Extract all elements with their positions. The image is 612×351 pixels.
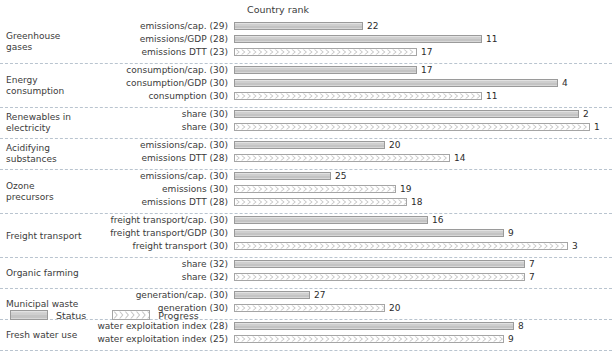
plot-area: Greenhousegasesemissions/cap. (29)22emis… [0, 20, 612, 292]
bar-track: 7 [234, 271, 612, 284]
bar-value-label: 27 [311, 289, 325, 302]
bar-track: 25 [234, 170, 612, 183]
bar-value-label: 14 [451, 152, 465, 165]
row-label: consumption (30) [92, 90, 234, 103]
bar-value-label: 2 [580, 108, 589, 121]
group-label: Renewables inelectricity [6, 112, 90, 134]
status-swatch-icon [10, 310, 48, 320]
chart-row: freight transport (30)3 [92, 240, 612, 253]
bar-track: 20 [234, 302, 612, 315]
chart-title: Country rank [247, 4, 309, 15]
group-rows: emissions/cap. (30)25emissions (30)19emi… [92, 170, 612, 209]
group-label: Fresh water use [6, 330, 90, 341]
group-label: Organic farming [6, 268, 90, 279]
row-label: freight transport/GDP (30) [92, 227, 234, 240]
chevron-pattern-icon [235, 336, 503, 342]
group-rows: share (32)7share (32)7 [92, 258, 612, 284]
bar-track: 2 [234, 108, 612, 121]
row-label: emissions DTT (23) [92, 46, 234, 59]
chart-row: emissions (30)19 [92, 183, 612, 196]
chevron-pattern-icon [235, 186, 395, 192]
progress-bar [234, 48, 417, 56]
row-label: freight transport/cap. (30) [92, 214, 234, 227]
chart-row: consumption/cap. (30)17 [92, 64, 612, 77]
group-rows: share (30)2share (30)1 [92, 108, 612, 134]
bar-value-label: 20 [386, 139, 400, 152]
status-bar [234, 66, 417, 74]
group-label: Energyconsumption [6, 75, 90, 97]
group-rows: emissions/cap. (29)22emissions/GDP (28)1… [92, 20, 612, 59]
row-label: share (32) [92, 258, 234, 271]
indicator-group: Energyconsumptionconsumption/cap. (30)17… [0, 64, 612, 108]
chart-row: emissions/GDP (28)11 [92, 33, 612, 46]
chart-row: emissions DTT (28)18 [92, 196, 612, 209]
bar-track: 11 [234, 90, 612, 103]
status-bar [234, 79, 558, 87]
progress-bar [234, 123, 590, 131]
bar-track: 22 [234, 20, 612, 33]
bar-track: 8 [234, 320, 612, 333]
chevron-pattern-icon [235, 93, 481, 99]
progress-bar [234, 273, 525, 281]
legend-item-status: Status [10, 310, 86, 321]
chart-row: emissions DTT (28)14 [92, 152, 612, 165]
group-rows: water exploitation index (28)8water expl… [92, 320, 612, 346]
bar-value-label: 11 [483, 33, 497, 46]
row-label: emissions DTT (28) [92, 196, 234, 209]
bar-value-label: 19 [397, 183, 411, 196]
indicator-group: Greenhousegasesemissions/cap. (29)22emis… [0, 20, 612, 64]
indicator-group: Renewables inelectricityshare (30)2share… [0, 108, 612, 139]
bar-value-label: 17 [418, 46, 432, 59]
row-label: emissions (30) [92, 183, 234, 196]
status-bar [234, 322, 514, 330]
bar-value-label: 3 [569, 240, 578, 253]
chevron-pattern-icon [235, 49, 416, 55]
progress-bar [234, 304, 385, 312]
bar-track: 1 [234, 121, 612, 134]
status-bar [234, 229, 504, 237]
chevron-pattern-icon [235, 155, 449, 161]
group-label: Greenhousegases [6, 31, 90, 53]
group-label: Ozoneprecursors [6, 181, 90, 203]
bar-track: 19 [234, 183, 612, 196]
progress-bar [234, 92, 482, 100]
bar-track: 18 [234, 196, 612, 209]
bar-value-label: 7 [526, 271, 535, 284]
indicator-group: Freight transportfreight transport/cap. … [0, 214, 612, 258]
bar-track: 27 [234, 289, 612, 302]
row-label: consumption/GDP (30) [92, 77, 234, 90]
progress-bar [234, 154, 450, 162]
bar-value-label: 9 [505, 333, 514, 346]
legend-label: Progress [158, 310, 199, 321]
bar-track: 14 [234, 152, 612, 165]
row-label: share (30) [92, 108, 234, 121]
group-label: Freight transport [6, 230, 90, 241]
indicator-group: Fresh water usewater exploitation index … [0, 320, 612, 351]
status-bar [234, 216, 428, 224]
progress-swatch-icon [112, 310, 150, 320]
row-label: emissions/cap. (30) [92, 170, 234, 183]
progress-bar [234, 242, 568, 250]
chart-row: consumption/GDP (30)4 [92, 77, 612, 90]
bar-value-label: 7 [526, 258, 535, 271]
row-label: emissions/cap. (29) [92, 20, 234, 33]
bar-track: 20 [234, 139, 612, 152]
row-label: emissions DTT (28) [92, 152, 234, 165]
legend-item-progress: Progress [112, 310, 199, 321]
chart-legend: StatusProgress [10, 308, 225, 322]
chart-row: water exploitation index (25)9 [92, 333, 612, 346]
bar-value-label: 4 [559, 77, 568, 90]
bar-track: 17 [234, 46, 612, 59]
progress-bar [234, 185, 396, 193]
bar-value-label: 17 [418, 64, 432, 77]
bar-track: 7 [234, 258, 612, 271]
group-label: Acidifyingsubstances [6, 143, 90, 165]
chart-row: share (32)7 [92, 258, 612, 271]
chart-row: emissions/cap. (30)20 [92, 139, 612, 152]
chart-row: share (30)1 [92, 121, 612, 134]
indicator-group: Acidifyingsubstancesemissions/cap. (30)2… [0, 139, 612, 170]
group-rows: consumption/cap. (30)17consumption/GDP (… [92, 64, 612, 103]
row-label: emissions/cap. (30) [92, 139, 234, 152]
row-label: share (30) [92, 121, 234, 134]
row-label: consumption/cap. (30) [92, 64, 234, 77]
